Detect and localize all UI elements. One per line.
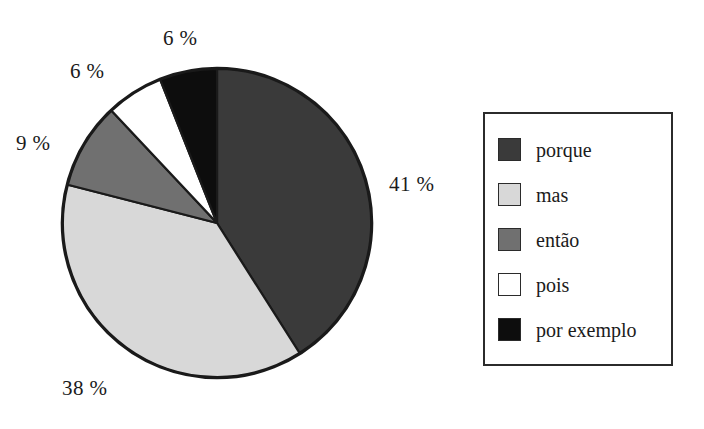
legend-swatch-icon bbox=[498, 183, 521, 206]
pie-svg bbox=[52, 58, 382, 388]
legend-swatch-icon bbox=[498, 228, 521, 251]
pie-label-pois: 6 % bbox=[70, 61, 104, 82]
legend-item-label: por exemplo bbox=[536, 320, 637, 340]
legend-item-por-exemplo[interactable]: por exemplo bbox=[485, 307, 671, 352]
legend-item-label: então bbox=[536, 230, 579, 250]
pie-label-entao: 9 % bbox=[16, 133, 50, 154]
legend-swatch-icon bbox=[498, 273, 521, 296]
legend-item-então[interactable]: então bbox=[485, 217, 671, 262]
legend-item-mas[interactable]: mas bbox=[485, 172, 671, 217]
chart-legend: porquemasentãopoispor exemplo bbox=[483, 112, 673, 366]
pie-label-por-exemplo: 6 % bbox=[163, 28, 197, 49]
legend-swatch-icon bbox=[498, 138, 521, 161]
legend-item-label: porque bbox=[536, 140, 592, 160]
legend-item-porque[interactable]: porque bbox=[485, 127, 671, 172]
pie-chart-figure: 6 % 6 % 9 % 38 % 41 % porquemasentãopois… bbox=[0, 0, 704, 429]
pie-chart-graphic bbox=[52, 58, 382, 388]
pie-label-porque: 41 % bbox=[389, 174, 434, 195]
legend-item-label: mas bbox=[536, 185, 568, 205]
legend-item-pois[interactable]: pois bbox=[485, 262, 671, 307]
pie-label-mas: 38 % bbox=[62, 378, 107, 399]
legend-item-label: pois bbox=[536, 275, 569, 295]
legend-swatch-icon bbox=[498, 318, 521, 341]
